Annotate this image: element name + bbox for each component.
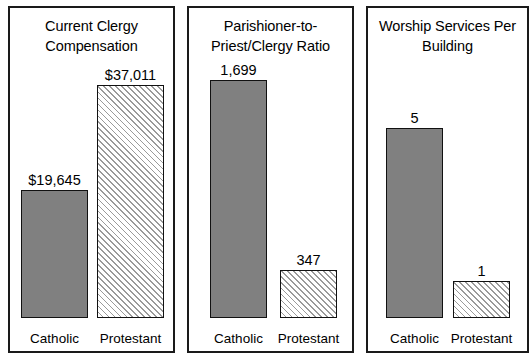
bar-value-label: 347	[275, 252, 342, 268]
plot-area: $19,645 Catholic $37,011 Protestant	[10, 8, 173, 351]
plot-area: 1,699 Catholic 347 Protestant	[189, 8, 352, 351]
chart-panel-current-clergy-compensation: Current Clergy Compensation $19,645 Cath…	[8, 6, 175, 353]
bar-protestant	[97, 85, 164, 318]
bar-value-label: $19,645	[21, 172, 88, 188]
bar-value-label: 1,699	[205, 62, 272, 78]
bar-protestant	[453, 281, 510, 318]
bar-value-label: 1	[448, 263, 515, 279]
category-label-protestant: Protestant	[87, 331, 174, 347]
bar-catholic	[386, 128, 443, 318]
bar-value-label: 5	[381, 110, 448, 126]
chart-panel-parishioner-to-priest-clergy-ratio: Parishioner-to- Priest/Clergy Ratio 1,69…	[187, 6, 354, 353]
category-label-catholic: Catholic	[11, 331, 98, 347]
category-label-protestant: Protestant	[438, 331, 525, 347]
chart-panel-worship-services-per-building: Worship Services Per Building 5 Catholic…	[366, 6, 529, 353]
plot-area: 5 Catholic 1 Protestant	[368, 8, 527, 351]
category-label-protestant: Protestant	[265, 331, 352, 347]
bar-catholic	[210, 80, 267, 318]
bar-value-label: $37,011	[97, 67, 164, 83]
chart-figure: Current Clergy Compensation $19,645 Cath…	[0, 0, 531, 361]
bar-catholic	[21, 190, 88, 318]
bar-protestant	[280, 270, 337, 318]
